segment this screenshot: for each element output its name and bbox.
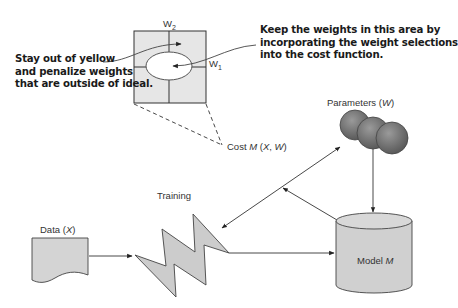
training-label: Training <box>157 190 191 201</box>
training-node: Training <box>135 190 229 297</box>
annotation-line: that are outside of ideal. <box>15 78 153 91</box>
training-zigzag-icon <box>135 214 229 297</box>
model-label: Model M <box>357 255 394 266</box>
parameter-sphere-icon <box>376 122 408 154</box>
training-parameters-arrow <box>222 147 340 228</box>
data-node: Data (X) <box>32 224 88 282</box>
data-label: Data (X) <box>40 224 75 235</box>
annotation-line: and penalize weights <box>15 66 153 79</box>
left-annotation: Stay out of yellow and penalize weights … <box>15 53 153 91</box>
right-annotation: Keep the weights in this area by incorpo… <box>260 24 458 62</box>
annotation-line: Stay out of yellow <box>15 53 153 66</box>
parameters-node: Parameters (W) <box>327 97 408 154</box>
axis-w2-label: W2 <box>163 18 176 31</box>
parameters-label: Parameters (W) <box>327 97 394 108</box>
annotation-line: into the cost function. <box>260 49 458 62</box>
cost-function-label: Cost M (X, W) <box>227 141 287 152</box>
cost-projection-right <box>206 104 222 145</box>
cost-projection-left <box>134 104 222 145</box>
axis-w1-label: W1 <box>209 58 222 71</box>
annotation-line: incorporating the weight selections <box>260 37 458 50</box>
model-node: Model M <box>336 213 412 293</box>
annotation-line: Keep the weights in this area by <box>260 24 458 37</box>
data-document-icon <box>32 238 88 282</box>
model-feedback-arrow <box>283 188 337 220</box>
